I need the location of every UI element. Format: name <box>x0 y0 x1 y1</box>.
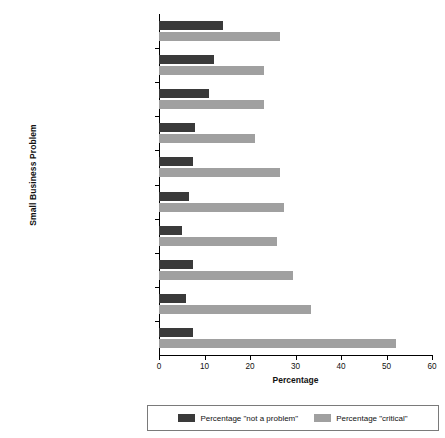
y-axis-tick <box>155 82 159 83</box>
bar-not-a-problem[interactable] <box>159 89 209 98</box>
legend-item-critical[interactable]: Percentage "critical" <box>314 414 408 423</box>
x-axis-tick-label: 20 <box>235 362 265 371</box>
x-axis-tick <box>250 355 251 360</box>
x-axis-tick <box>296 355 297 360</box>
bar-critical[interactable] <box>159 271 293 280</box>
x-axis-tick <box>159 355 160 360</box>
bar-critical[interactable] <box>159 339 396 348</box>
chart-legend: Percentage "not a problem" Percentage "c… <box>147 405 439 431</box>
bar-group: State Taxes onBusiness Income <box>159 55 432 89</box>
x-axis-tick-label: 60 <box>417 362 445 371</box>
x-axis-tick <box>387 355 388 360</box>
y-axis-tick <box>155 321 159 322</box>
bar-not-a-problem[interactable] <box>159 226 182 235</box>
bar-group: Federal Taxes onBusiness Income <box>159 260 432 294</box>
x-axis-tick <box>432 355 433 360</box>
y-axis-tick <box>155 219 159 220</box>
legend-swatch-icon-critical <box>314 414 331 422</box>
legend-label-not-a-problem: Percentage "not a problem" <box>200 414 298 423</box>
bar-not-a-problem[interactable] <box>159 192 189 201</box>
bar-critical[interactable] <box>159 203 284 212</box>
y-axis-tick <box>155 287 159 288</box>
bar-critical[interactable] <box>159 305 311 314</box>
x-axis-tick <box>341 355 342 360</box>
legend-swatch-icon-not-a-problem <box>178 414 195 422</box>
x-axis-tick-label: 50 <box>372 362 402 371</box>
legend-item-not-a-problem[interactable]: Percentage "not a problem" <box>178 414 298 423</box>
bar-group: Tax Complexity <box>159 192 432 226</box>
bar-group: Property Taxes <box>159 89 432 123</box>
bar-not-a-problem[interactable] <box>159 157 193 166</box>
bar-not-a-problem[interactable] <box>159 21 223 30</box>
x-axis-tick-label: 40 <box>326 362 356 371</box>
x-axis-tick-label: 0 <box>144 362 174 371</box>
bar-not-a-problem[interactable] <box>159 260 193 269</box>
bar-critical[interactable] <box>159 134 255 143</box>
x-axis-tick-label: 10 <box>190 362 220 371</box>
legend-label-critical: Percentage "critical" <box>336 414 408 423</box>
bar-group: LocatingQualified Employees <box>159 21 432 55</box>
bar-critical[interactable] <box>159 100 264 109</box>
y-axis-tick <box>155 150 159 151</box>
plot-area: LocatingQualified EmployeesState Taxes o… <box>159 14 432 355</box>
bar-not-a-problem[interactable] <box>159 294 186 303</box>
bar-not-a-problem[interactable] <box>159 123 195 132</box>
y-axis-tick <box>155 48 159 49</box>
bar-critical[interactable] <box>159 32 280 41</box>
x-axis-tick <box>205 355 206 360</box>
bar-chart: Small Business Problem LocatingQualified… <box>0 0 445 438</box>
x-axis-tick-label: 30 <box>281 362 311 371</box>
bar-critical[interactable] <box>159 237 277 246</box>
bar-not-a-problem[interactable] <box>159 55 214 64</box>
y-axis-tick <box>155 116 159 117</box>
bar-critical[interactable] <box>159 168 280 177</box>
bar-group: Frequent Changes inFederal Tax Laws/Rule… <box>159 123 432 157</box>
bar-group: Uncertainty overGovernment Actions <box>159 157 432 191</box>
y-axis-tick <box>155 185 159 186</box>
bar-group: Uncertainty overEconomic Conditions <box>159 226 432 260</box>
y-axis-tick <box>155 253 159 254</box>
y-axis-title: Small Business Problem <box>28 85 38 265</box>
bar-not-a-problem[interactable] <box>159 328 193 337</box>
x-axis-title: Percentage <box>159 375 432 385</box>
bar-critical[interactable] <box>159 66 264 75</box>
bar-group: UnreasonableGovernment Regulations <box>159 294 432 328</box>
